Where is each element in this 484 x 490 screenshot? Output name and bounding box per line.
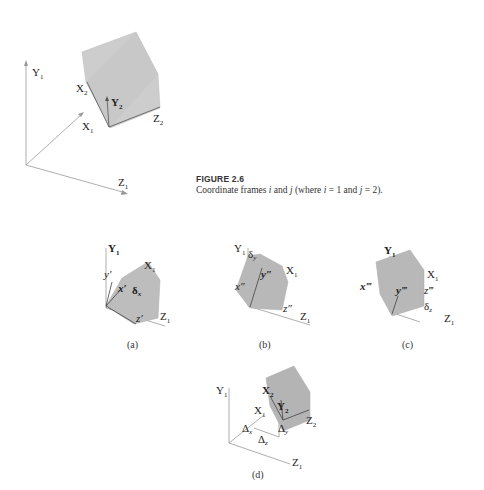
svg-text:Z2: Z2 [306,414,317,429]
svg-text:Z1: Z1 [292,456,303,471]
svg-text:Y1: Y1 [108,242,120,257]
figure-caption-text: Coordinate frames i and j (where i = 1 a… [196,185,383,195]
panel-c: Y1 x‴ y‴ X1 z‴ δz Z1 [359,244,455,327]
svg-text:y‴: y‴ [394,284,408,296]
label-x1: X1 [82,120,94,135]
svg-text:δz: δz [424,300,432,314]
panel-b-label: (b) [259,339,271,350]
svg-text:X1: X1 [254,404,266,419]
svg-text:x″: x″ [234,280,245,292]
svg-text:X1: X1 [286,264,298,279]
panel-a: Y1 X1 Z1 y′ x′ δx z′ [103,242,171,326]
svg-text:Δz: Δz [258,433,268,447]
axis-x1 [26,114,82,165]
panel-b: Y1 δy X1 x″ y″ z″ Z1 [234,242,311,325]
label-x2: X2 [76,82,88,97]
label-z2: Z2 [153,112,164,127]
svg-text:z‴: z‴ [423,284,434,296]
panel-d-label: (d) [252,469,264,480]
panel-c-label: (c) [402,339,413,350]
svg-text:Δx: Δx [242,422,253,436]
figure-caption: FIGURE 2.6 Coordinate frames i and j (wh… [196,174,383,195]
svg-text:Y1: Y1 [216,384,228,399]
svg-text:x′: x′ [117,282,127,294]
label-y1: Y1 [32,66,44,81]
svg-text:Y1: Y1 [234,242,246,257]
svg-text:z″: z″ [282,302,292,314]
panel-d: Y1 X2 X1 Y2 Z2 Δx Δy Δz Z1 [216,366,317,471]
svg-text:y′: y′ [103,268,112,280]
figure-number: FIGURE 2.6 [196,174,383,184]
svg-text:X1: X1 [427,268,439,283]
figure-canvas: Y1 X1 Z1 X2 Y2 Z2 Y1 X1 Z1 y′ x′ δx z′ Y… [0,0,484,490]
svg-text:y″: y″ [259,268,272,280]
svg-text:x‴: x‴ [359,280,373,292]
axis-z1 [26,165,126,193]
svg-text:Z1: Z1 [160,310,171,325]
main-diagram: Y1 X1 Z1 X2 Y2 Z2 [24,32,164,195]
svg-text:δy: δy [248,248,257,262]
svg-text:Z1: Z1 [444,312,455,327]
panel-a-label: (a) [127,339,138,350]
svg-text:z′: z′ [135,312,143,324]
label-z1: Z1 [118,176,129,191]
